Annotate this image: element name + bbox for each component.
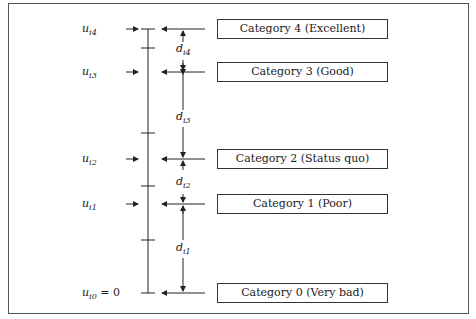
utility-label-u1: ui1 bbox=[82, 198, 97, 214]
distance-label-d1: di1 bbox=[176, 242, 191, 258]
d-symbol: d bbox=[176, 42, 183, 55]
category-box-1: Category 1 (Poor) bbox=[217, 194, 388, 214]
u-subscript: i1 bbox=[89, 203, 97, 212]
u-subscript: i4 bbox=[89, 28, 97, 37]
d-symbol: d bbox=[176, 110, 183, 123]
category-box-2: Category 2 (Status quo) bbox=[217, 149, 388, 169]
utility-label-u3: ui3 bbox=[82, 66, 97, 82]
d-symbol: d bbox=[176, 175, 183, 188]
category-box-0: Category 0 (Very bad) bbox=[217, 283, 388, 303]
d-subscript: i1 bbox=[183, 247, 191, 256]
utility-label-u0: ui0 = 0 bbox=[82, 287, 120, 303]
utility-label-u4: ui4 bbox=[82, 23, 97, 39]
u-suffix: = 0 bbox=[97, 286, 120, 299]
u-subscript: i3 bbox=[89, 71, 97, 80]
d-subscript: i2 bbox=[183, 181, 191, 190]
d-subscript: i3 bbox=[183, 116, 191, 125]
distance-label-d3: di3 bbox=[176, 111, 191, 127]
category-box-4: Category 4 (Excellent) bbox=[217, 19, 388, 39]
d-subscript: i4 bbox=[183, 48, 191, 57]
u-subscript: i0 bbox=[89, 292, 97, 301]
distance-label-d2: di2 bbox=[176, 176, 191, 192]
category-box-3: Category 3 (Good) bbox=[217, 62, 388, 82]
distance-label-d4: di4 bbox=[176, 43, 191, 59]
u-subscript: i2 bbox=[89, 158, 97, 167]
utility-label-u2: ui2 bbox=[82, 153, 97, 169]
d-symbol: d bbox=[176, 241, 183, 254]
